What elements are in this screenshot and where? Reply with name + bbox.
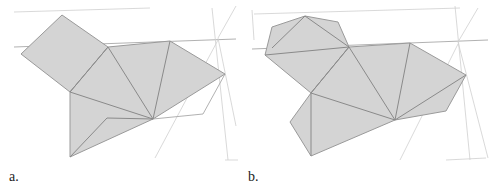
- guide-line: [458, 8, 478, 42]
- panel-a: [14, 6, 238, 160]
- guide-line: [218, 6, 236, 38]
- panel-label-b: b.: [248, 169, 259, 185]
- figure-canvas: [0, 0, 498, 192]
- panel-b: [252, 6, 488, 160]
- guide-line: [458, 42, 488, 158]
- guide-line: [254, 8, 460, 14]
- guide-line: [446, 158, 486, 160]
- guide-line: [14, 8, 150, 12]
- panel-label-a: a.: [9, 169, 19, 185]
- guide-line: [252, 10, 254, 40]
